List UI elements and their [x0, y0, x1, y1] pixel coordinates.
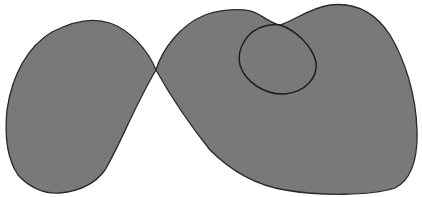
- figure-eight-diagram: [0, 0, 422, 197]
- diagram-canvas: [0, 0, 422, 197]
- left-blob: [6, 20, 156, 193]
- right-blob: [156, 4, 417, 194]
